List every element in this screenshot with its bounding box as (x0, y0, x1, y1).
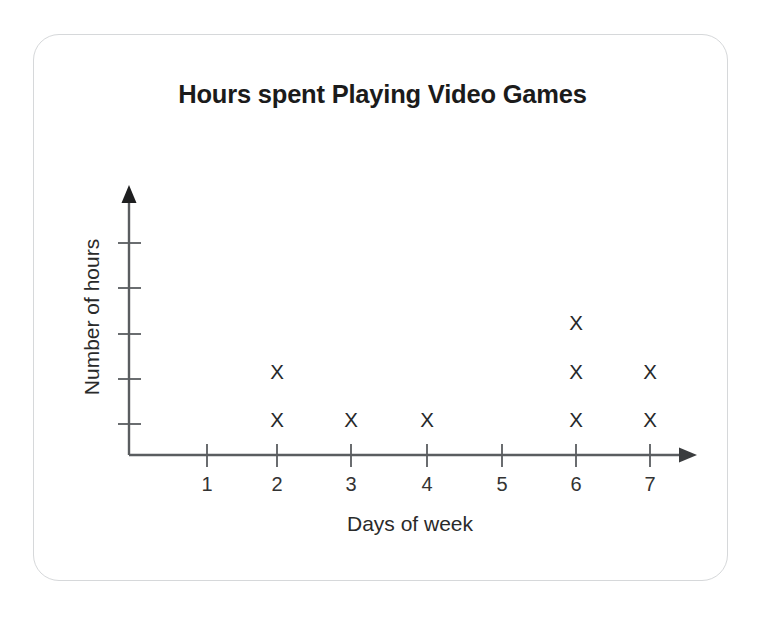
data-point-marker: X (336, 410, 366, 431)
data-point-marker: X (561, 410, 591, 431)
x-tick-label-4: 4 (407, 473, 447, 496)
x-tick-label-7: 7 (630, 473, 670, 496)
data-point-marker: X (561, 362, 591, 383)
data-point-marker: X (561, 313, 591, 334)
chart-page: Hours spent Playing Video Games (0, 0, 765, 617)
x-axis-label: Days of week (130, 512, 690, 536)
data-point-marker: X (635, 410, 665, 431)
x-tick-label-2: 2 (257, 473, 297, 496)
data-point-marker: X (262, 362, 292, 383)
plot-area: 1 2 3 4 5 6 7 XXXXXXXXX Number of hours … (0, 0, 765, 617)
y-axis-arrowhead (122, 185, 137, 203)
x-tick-label-6: 6 (556, 473, 596, 496)
x-tick-label-5: 5 (482, 473, 522, 496)
data-point-marker: X (262, 410, 292, 431)
data-point-marker: X (635, 362, 665, 383)
data-point-marker: X (412, 410, 442, 431)
x-tick-label-3: 3 (331, 473, 371, 496)
y-axis-label: Number of hours (80, 207, 104, 427)
x-tick-label-1: 1 (187, 473, 227, 496)
x-axis-arrowhead (679, 448, 697, 463)
